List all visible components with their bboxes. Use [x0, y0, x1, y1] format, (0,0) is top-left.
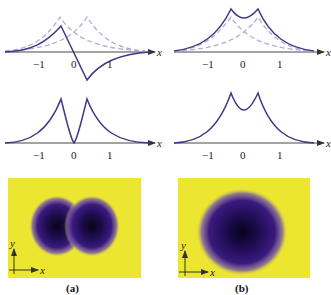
x-axis-label: x — [325, 137, 331, 149]
dashed-cusp-left — [5, 17, 145, 51]
y-label: y — [9, 237, 15, 249]
plot-b-middle: x −1 0 1 — [174, 93, 331, 161]
tick-0: 0 — [240, 58, 246, 70]
x-axis-label: x — [156, 137, 162, 149]
x-label: x — [209, 266, 215, 278]
density-curve-antisymmetric — [5, 99, 150, 143]
tick-neg1: −1 — [33, 149, 45, 161]
plot-a-middle: x −1 0 1 — [5, 99, 162, 161]
x-axis-label: x — [325, 46, 331, 58]
density-image-a: y x — [8, 178, 141, 278]
tick-0: 0 — [240, 149, 246, 161]
tick-1: 1 — [277, 58, 283, 70]
panel-label-a: (a) — [66, 282, 79, 295]
solid-symmetric-curve — [174, 9, 314, 51]
tick-1: 1 — [277, 149, 283, 161]
figure: x −1 0 1 x −1 0 1 x −1 0 1 x −1 0 1 — [0, 0, 331, 295]
tick-neg1: −1 — [202, 149, 214, 161]
panel-label-b: (b) — [235, 282, 249, 295]
plot-b-top: x −1 0 1 — [174, 9, 331, 70]
tick-1: 1 — [107, 58, 113, 70]
tick-1: 1 — [107, 149, 113, 161]
tick-neg1: −1 — [33, 58, 45, 70]
central-blob — [196, 188, 288, 276]
plot-a-top: x −1 0 1 — [5, 17, 162, 80]
y-label: y — [180, 239, 186, 251]
x-axis-label: x — [156, 46, 162, 58]
tick-0: 0 — [71, 58, 77, 70]
x-label: x — [39, 264, 45, 276]
tick-neg1: −1 — [202, 58, 214, 70]
right-lobe — [64, 195, 120, 257]
tick-0: 0 — [71, 149, 77, 161]
dashed-cusp-right — [5, 17, 145, 51]
density-curve-symmetric — [174, 93, 314, 143]
density-image-b: y x — [178, 178, 310, 278]
